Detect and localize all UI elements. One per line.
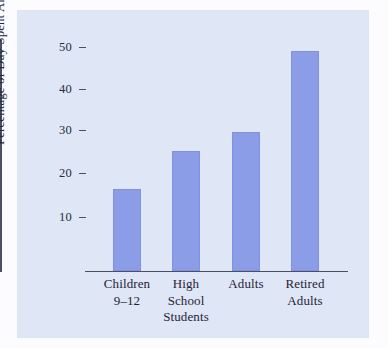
bar-adults bbox=[232, 132, 260, 271]
y-tick-label-40: 40 bbox=[38, 81, 72, 96]
y-tick-label-50: 50 bbox=[38, 40, 72, 55]
y-tick-40 bbox=[79, 89, 86, 90]
y-axis-title: Percentage of Day Spent Alone bbox=[0, 0, 8, 145]
x-category-line: Students bbox=[147, 309, 225, 326]
x-category-line: School bbox=[147, 293, 225, 310]
y-tick-30 bbox=[79, 130, 86, 131]
bar-chart-figure: 50 40 30 20 10 Percentage of Day Spent A… bbox=[0, 0, 388, 348]
y-tick-label-30: 30 bbox=[38, 123, 72, 138]
x-category-label-retired-adults: Retired Adults bbox=[266, 276, 344, 309]
bar-high-school-students bbox=[172, 151, 200, 271]
x-category-line: Adults bbox=[266, 293, 344, 310]
y-tick-label-10: 10 bbox=[38, 210, 72, 225]
bar-children bbox=[113, 189, 141, 271]
y-tick-20 bbox=[79, 173, 86, 174]
y-tick-label-20: 20 bbox=[38, 166, 72, 181]
y-tick-10 bbox=[79, 217, 86, 218]
x-category-line: Retired bbox=[266, 276, 344, 293]
bar-retired-adults bbox=[291, 51, 319, 271]
y-tick-50 bbox=[79, 47, 86, 48]
